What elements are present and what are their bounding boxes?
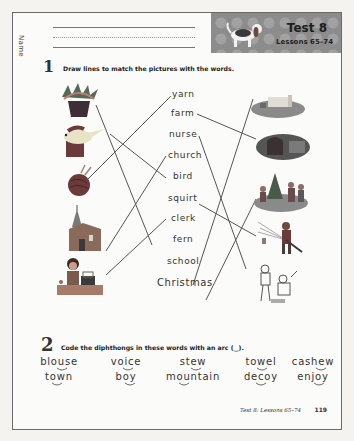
diphthong-arcs [13, 13, 343, 431]
worksheet-page: Name Test 8 Lessons 65–74 1 Draw lines t… [12, 12, 342, 430]
page-number: 119 [314, 406, 327, 413]
footer-lesson-ref: Test 8: Lessons 65–74 [240, 407, 301, 413]
